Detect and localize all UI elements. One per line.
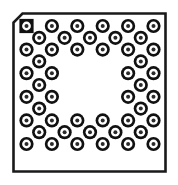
- solder-ball: [19, 43, 33, 57]
- solder-ball-center: [126, 48, 130, 52]
- solder-ball: [58, 125, 72, 139]
- solder-ball-center: [88, 130, 92, 134]
- solder-ball-center: [37, 83, 41, 87]
- bga-package-drawing: [0, 0, 178, 185]
- solder-ball-center: [50, 48, 54, 52]
- solder-ball: [70, 137, 84, 151]
- solder-ball-center: [50, 71, 54, 75]
- solder-ball-center: [126, 142, 130, 146]
- solder-ball: [45, 137, 59, 151]
- solder-ball-center: [25, 118, 29, 122]
- solder-ball: [45, 43, 59, 57]
- solder-ball-center: [25, 142, 29, 146]
- solder-ball: [121, 90, 135, 104]
- solder-ball-center: [126, 24, 130, 28]
- solder-ball: [121, 43, 135, 57]
- solder-ball-center: [113, 36, 117, 40]
- solder-ball: [96, 137, 110, 151]
- solder-ball-center: [152, 48, 156, 52]
- solder-ball: [121, 19, 135, 33]
- solder-ball: [134, 31, 148, 45]
- solder-ball-center: [50, 95, 54, 99]
- solder-ball-center: [152, 142, 156, 146]
- solder-ball-center: [75, 48, 79, 52]
- solder-ball-center: [75, 142, 79, 146]
- solder-ball-center: [152, 118, 156, 122]
- solder-ball: [32, 54, 46, 68]
- solder-ball: [146, 43, 160, 57]
- solder-ball: [19, 90, 33, 104]
- solder-ball-center: [50, 118, 54, 122]
- solder-ball-center: [37, 36, 41, 40]
- solder-ball-center: [75, 24, 79, 28]
- solder-ball-center: [101, 118, 105, 122]
- solder-ball-center: [25, 95, 29, 99]
- solder-ball: [121, 113, 135, 127]
- solder-ball-center: [63, 130, 67, 134]
- solder-ball: [70, 113, 84, 127]
- solder-ball: [19, 66, 33, 80]
- solder-ball: [121, 137, 135, 151]
- solder-ball-center: [50, 142, 54, 146]
- solder-ball-center: [63, 36, 67, 40]
- solder-ball: [146, 66, 160, 80]
- solder-ball-center: [25, 71, 29, 75]
- solder-ball-center: [25, 48, 29, 52]
- solder-ball: [96, 43, 110, 57]
- solder-ball-center: [139, 36, 143, 40]
- solder-ball-center: [139, 83, 143, 87]
- solder-ball: [32, 78, 46, 92]
- solder-ball: [146, 137, 160, 151]
- solder-ball-center: [126, 118, 130, 122]
- pin-1-marker: [19, 19, 33, 33]
- solder-ball-center: [50, 24, 54, 28]
- solder-ball-center: [37, 107, 41, 111]
- solder-ball: [96, 113, 110, 127]
- solder-ball: [96, 19, 110, 33]
- solder-ball-center: [101, 142, 105, 146]
- solder-ball-center: [88, 36, 92, 40]
- solder-ball: [134, 78, 148, 92]
- solder-ball: [134, 125, 148, 139]
- solder-ball-center: [25, 24, 29, 28]
- solder-ball: [146, 113, 160, 127]
- solder-ball: [32, 125, 46, 139]
- solder-ball: [83, 31, 97, 45]
- solder-ball: [108, 125, 122, 139]
- solder-ball-center: [152, 71, 156, 75]
- solder-ball: [45, 90, 59, 104]
- solder-ball: [45, 19, 59, 33]
- solder-ball: [146, 19, 160, 33]
- solder-ball-center: [37, 130, 41, 134]
- solder-ball: [83, 125, 97, 139]
- solder-ball-center: [139, 107, 143, 111]
- solder-ball: [58, 31, 72, 45]
- solder-ball-center: [139, 130, 143, 134]
- solder-ball: [108, 31, 122, 45]
- solder-ball-center: [139, 59, 143, 63]
- solder-ball: [70, 19, 84, 33]
- solder-ball-center: [152, 24, 156, 28]
- solder-ball-center: [75, 118, 79, 122]
- solder-ball: [19, 137, 33, 151]
- solder-ball: [32, 102, 46, 116]
- solder-ball-center: [101, 48, 105, 52]
- solder-ball: [121, 66, 135, 80]
- bga-package-figure: [0, 0, 178, 185]
- solder-ball-center: [126, 71, 130, 75]
- solder-ball-center: [113, 130, 117, 134]
- solder-ball: [134, 102, 148, 116]
- solder-ball: [70, 43, 84, 57]
- solder-ball: [146, 90, 160, 104]
- solder-ball-center: [101, 24, 105, 28]
- solder-ball: [19, 113, 33, 127]
- solder-ball: [45, 66, 59, 80]
- solder-ball: [134, 54, 148, 68]
- solder-ball-center: [37, 59, 41, 63]
- solder-ball-center: [126, 95, 130, 99]
- solder-ball: [32, 31, 46, 45]
- solder-ball-center: [152, 95, 156, 99]
- solder-ball: [45, 113, 59, 127]
